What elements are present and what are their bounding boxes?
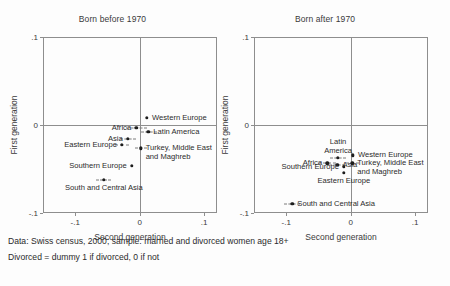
x-axis-tick-label: -.1 xyxy=(282,218,291,227)
y-axis-title: First generation xyxy=(9,95,19,154)
y-axis-tick xyxy=(40,37,43,38)
data-point-label: Latin America xyxy=(153,128,199,137)
data-point-label: South and Central Asia xyxy=(65,184,143,193)
y-axis-tick-label: -.1 xyxy=(19,209,38,218)
data-point-label: Turkey, Middle Eastand Maghreb xyxy=(357,159,423,176)
caption-line-2: Divorced = dummy 1 if divorced, 0 if not xyxy=(8,252,159,262)
panel-title: Born before 1970 xyxy=(0,14,225,24)
panel-born-after-1970: Born after 1970 -.10.1-.10.1Second gener… xyxy=(211,14,439,214)
y-axis-tick xyxy=(251,213,254,214)
y-axis-tick-label: -.1 xyxy=(230,209,249,218)
y-axis-tick-label: 0 xyxy=(230,121,249,130)
panel-title: Born after 1970 xyxy=(211,14,439,24)
data-point-label: Africa xyxy=(112,124,131,133)
x-axis-tick-label: .1 xyxy=(201,218,208,227)
data-point-label: Turkey, Middle Eastand Maghreb xyxy=(146,144,212,161)
x-axis-tick-label: .1 xyxy=(412,218,419,227)
x-axis-tick-label: 0 xyxy=(348,218,352,227)
x-axis-tick xyxy=(75,213,76,216)
reference-line-y-zero xyxy=(254,125,428,126)
x-axis-tick xyxy=(204,213,205,216)
data-point-label: Southern Europe xyxy=(281,163,338,172)
x-axis-tick xyxy=(351,213,352,216)
y-axis-tick xyxy=(40,125,43,126)
panel-born-before-1970: Born before 1970 -.10.1-.10.1Second gene… xyxy=(0,14,225,214)
data-point-label: Western Europe xyxy=(152,114,207,123)
data-point-label: Eastern Europe xyxy=(64,141,117,150)
x-axis-tick-label: -.1 xyxy=(71,218,80,227)
y-axis-tick xyxy=(40,213,43,214)
y-axis-tick-label: .1 xyxy=(19,33,38,42)
y-axis-tick-label: 0 xyxy=(19,121,38,130)
data-point-label: Southern Europe xyxy=(69,162,126,171)
x-axis-tick xyxy=(140,213,141,216)
x-axis-tick xyxy=(286,213,287,216)
y-axis-tick-label: .1 xyxy=(230,33,249,42)
data-point-label: South and Central Asia xyxy=(297,200,375,209)
y-axis-tick xyxy=(251,125,254,126)
data-point-label: Eastern Europe xyxy=(318,177,371,186)
data-point-label: LatinAmerica xyxy=(324,138,352,155)
caption-line-1: Data: Swiss census, 2000; sample: marrie… xyxy=(8,236,289,246)
x-axis-tick-label: 0 xyxy=(137,218,141,227)
x-axis-tick xyxy=(415,213,416,216)
y-axis-tick xyxy=(251,37,254,38)
y-axis-title: First generation xyxy=(220,95,230,154)
